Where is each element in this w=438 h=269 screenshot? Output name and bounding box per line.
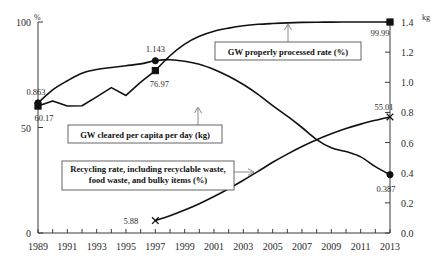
y-left-tick-label: 0 (26, 228, 31, 239)
x-tick-label: 1999 (175, 241, 195, 252)
data-point-label: 0.863 (26, 87, 45, 97)
data-point-label: 60.17 (34, 113, 53, 123)
x-tick-label: 2013 (380, 241, 400, 252)
x-tick-label: 2003 (233, 241, 253, 252)
marker-circle (152, 58, 158, 64)
y-right-tick-label: 1.0 (401, 77, 414, 88)
x-tick-label: 2005 (263, 241, 283, 252)
y-right-tick-label: 1.2 (401, 47, 414, 58)
x-tick-label: 1995 (116, 241, 136, 252)
x-tick-label: 1993 (87, 241, 107, 252)
data-point-label: 1.143 (146, 44, 165, 54)
callout-label: GW cleared per capita per day (kg) (80, 130, 210, 140)
y-right-tick-label: 0.8 (401, 107, 414, 118)
callout-label: Recycling rate, including recyclable was… (70, 164, 225, 174)
y-right-tick-label: 0.0 (401, 228, 414, 239)
y-axis-left-unit: % (34, 13, 41, 22)
marker-square (152, 67, 158, 73)
x-tick-label: 2001 (204, 241, 224, 252)
data-point-label: 5.88 (123, 216, 138, 226)
y-right-tick-label: 0.4 (401, 168, 414, 179)
data-point-label: 99.99 (370, 28, 389, 38)
data-point-label: 0.387 (376, 184, 395, 194)
dual-axis-line-chart: 1989199119931995199719992001200320052007… (0, 0, 438, 269)
y-left-tick-label: 50 (21, 123, 31, 134)
y-axis-right-unit: kg (422, 13, 430, 22)
x-tick-label: 1991 (57, 241, 77, 252)
y-right-tick-label: 0.6 (401, 138, 414, 149)
x-tick-label: 2007 (292, 241, 312, 252)
marker-circle (387, 172, 393, 178)
marker-square (35, 103, 41, 109)
callout-label: food waste, and bulky items (%) (89, 175, 208, 185)
callout-label: GW properly processed rate (%) (228, 47, 348, 57)
y-right-tick-label: 1.4 (401, 17, 414, 28)
x-tick-label: 1989 (28, 241, 48, 252)
x-tick-label: 1997 (145, 241, 165, 252)
y-right-tick-label: 0.2 (401, 198, 414, 209)
x-tick-label: 2009 (321, 241, 341, 252)
chart-figure: 1989199119931995199719992001200320052007… (0, 0, 438, 269)
data-point-label: 76.97 (150, 79, 169, 89)
data-point-label: 55.01 (374, 102, 393, 112)
x-tick-label: 2011 (351, 241, 371, 252)
y-left-tick-label: 100 (16, 17, 31, 28)
marker-square (387, 19, 393, 25)
